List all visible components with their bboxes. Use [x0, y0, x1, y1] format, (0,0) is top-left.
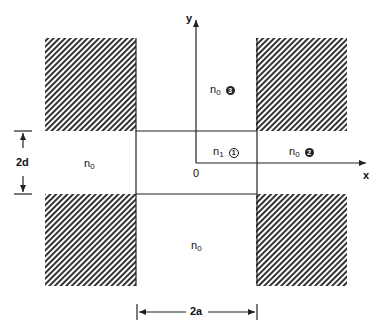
waveguide-diagram [0, 0, 385, 330]
region-left-label: n0 [84, 158, 95, 171]
region-bottom-label: n0 [191, 240, 202, 253]
width-dimension-label: 2a [187, 306, 205, 317]
region-marker-2: 2 [305, 148, 314, 157]
hatch-block-top-left [45, 38, 136, 131]
origin-label: 0 [193, 168, 199, 179]
x-axis-label: x [363, 170, 369, 181]
hatch-block-bottom-left [45, 194, 136, 286]
region-right-label: n02 [289, 146, 314, 159]
region-marker-1: 1 [229, 148, 239, 158]
region-core-label: n11 [213, 146, 239, 159]
hatch-block-top-right [256, 38, 347, 131]
region-top-label: n03 [210, 84, 235, 97]
height-dimension-label: 2d [13, 157, 32, 168]
y-axis-label: y [186, 13, 192, 24]
hatch-block-bottom-right [256, 194, 347, 286]
region-marker-3: 3 [226, 86, 235, 95]
